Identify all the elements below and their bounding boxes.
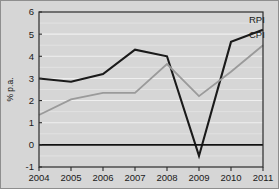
x-tick-label: 2011: [253, 172, 273, 183]
y-tick-label: 3: [29, 73, 34, 84]
y-tick-label: 6: [29, 6, 34, 17]
y-tick-label: 4: [29, 51, 34, 62]
line-chart: -10123456 200420052006200720082009201020…: [1, 1, 279, 189]
series-label-rpi: RPI: [249, 14, 265, 25]
y-tick-label: 5: [29, 29, 34, 40]
x-tick-label: 2007: [124, 172, 145, 183]
x-tick-label: 2010: [220, 172, 241, 183]
y-tick-label: 2: [29, 95, 34, 106]
x-axis-ticks: 20042005200620072008200920102011: [28, 167, 273, 183]
y-tick-label: -1: [26, 161, 34, 172]
series-line-cpi: [39, 45, 263, 115]
x-tick-label: 2008: [156, 172, 177, 183]
x-tick-label: 2009: [188, 172, 209, 183]
plot-wrapper: -10123456 200420052006200720082009201020…: [1, 1, 279, 189]
series-lines: [39, 30, 263, 156]
chart-figure: -10123456 200420052006200720082009201020…: [0, 0, 279, 189]
gridlines: [39, 23, 263, 156]
x-tick-label: 2006: [92, 172, 113, 183]
y-tick-label: 1: [29, 117, 34, 128]
y-tick-label: 0: [29, 139, 34, 150]
series-line-rpi: [39, 30, 263, 156]
x-tick-label: 2005: [60, 172, 81, 183]
series-label-cpi: CPI: [249, 29, 265, 40]
y-axis-title: % p.a.: [5, 77, 15, 101]
y-axis-label: % p.a.: [5, 77, 15, 101]
x-tick-label: 2004: [28, 172, 49, 183]
